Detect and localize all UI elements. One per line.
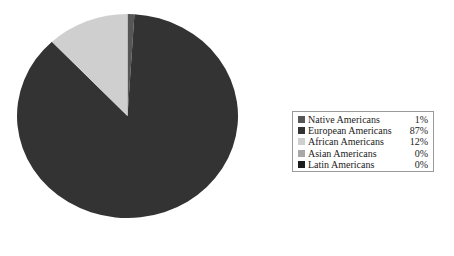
legend-item-value: 0%: [411, 148, 428, 159]
legend-item-label: Native Americans: [308, 114, 411, 125]
pie-slices-svg: [17, 14, 238, 218]
legend-item: European Americans 87%: [298, 125, 428, 136]
legend-swatch-icon: [298, 161, 305, 168]
legend-item-value: 0%: [411, 159, 428, 170]
legend-item-value: 1%: [411, 114, 428, 125]
legend-item: African Americans 12%: [298, 136, 428, 147]
chart-legend: Native Americans 1% European Americans 8…: [292, 111, 434, 172]
legend-item-label: African Americans: [308, 136, 406, 147]
legend-item-label: Asian Americans: [308, 148, 411, 159]
legend-item-value: 87%: [406, 125, 428, 136]
legend-item-label: European Americans: [308, 125, 406, 136]
legend-item-value: 12%: [406, 136, 428, 147]
legend-item: Latin Americans 0%: [298, 159, 428, 170]
legend-swatch-icon: [298, 150, 305, 157]
legend-swatch-icon: [298, 116, 305, 123]
legend-swatch-icon: [298, 138, 305, 145]
legend-swatch-icon: [298, 127, 305, 134]
legend-item: Asian Americans 0%: [298, 148, 428, 159]
pie-slice-group: [17, 14, 238, 218]
legend-item: Native Americans 1%: [298, 114, 428, 125]
pie-chart-figure: Native Americans 1% European Americans 8…: [0, 0, 454, 256]
legend-item-label: Latin Americans: [308, 159, 411, 170]
pie-chart-graphic: [17, 14, 238, 218]
